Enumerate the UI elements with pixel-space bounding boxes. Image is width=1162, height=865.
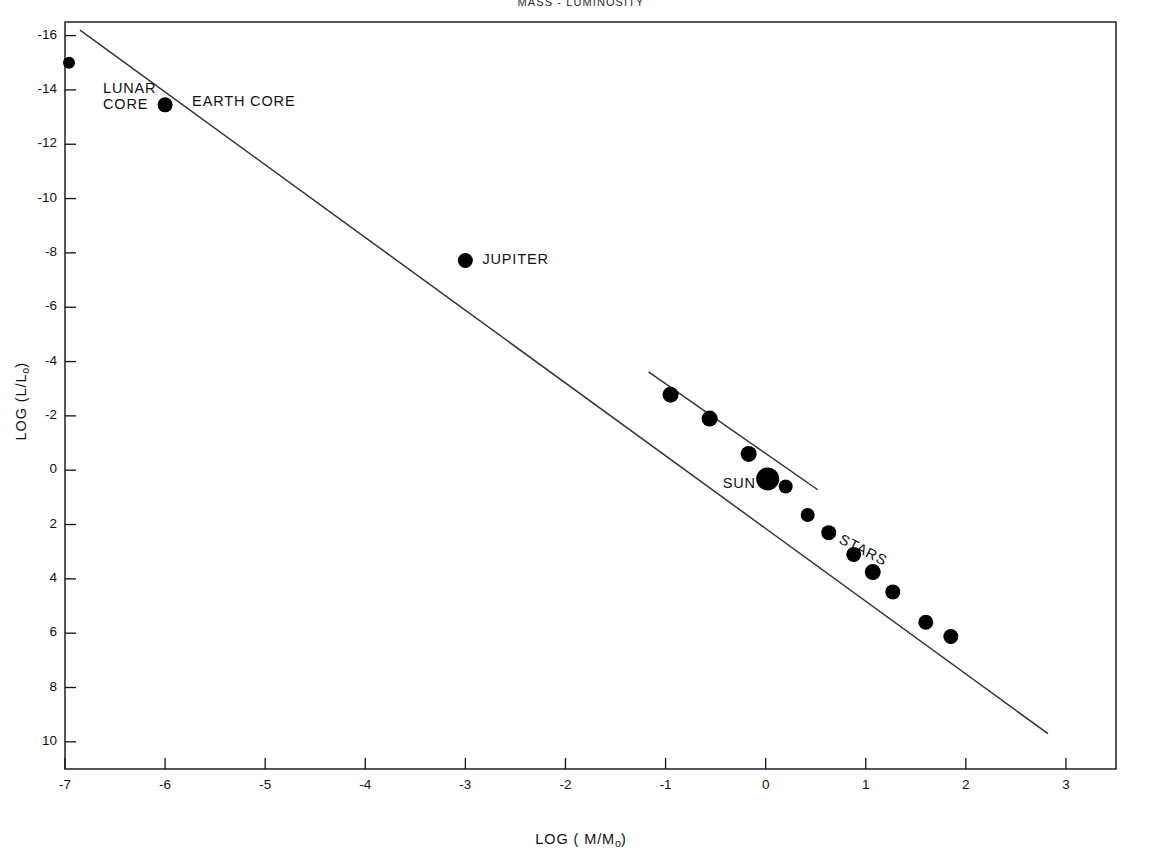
x-axis-title-text: LOG ( M/M xyxy=(535,831,615,847)
y-tick-label: -12 xyxy=(11,135,57,150)
y-tick-label: 4 xyxy=(11,570,57,585)
x-tick-label: -6 xyxy=(145,777,185,792)
x-axis-title: LOG ( M/Mo) xyxy=(0,831,1162,849)
y-axis-title: LOG (L/Lo) xyxy=(13,301,31,501)
earth-core-label-line1: EARTH CORE xyxy=(192,93,295,109)
data-point-star-10 xyxy=(918,615,933,630)
lunar-core-label-line2: CORE xyxy=(103,96,156,112)
x-tick-label: -4 xyxy=(345,777,385,792)
sun-label-line1: SUN xyxy=(723,475,756,491)
x-tick-label: -3 xyxy=(445,777,485,792)
x-tick-label: -2 xyxy=(545,777,585,792)
lunar-core-label: LUNARCORE xyxy=(103,80,156,112)
data-point-star-3 xyxy=(741,446,757,462)
data-point-star-6 xyxy=(821,525,836,540)
jupiter-label-line1: JUPITER xyxy=(482,251,548,267)
y-tick-label: -8 xyxy=(11,244,57,259)
data-point-lunar-core xyxy=(63,57,75,69)
mass-luminosity-figure: MASS - LUMINOSITY -7-6-5-4-3-2-10123 -16… xyxy=(0,0,1162,865)
x-tick-label: -5 xyxy=(245,777,285,792)
x-axis-title-tail: ) xyxy=(621,831,627,847)
x-tick-label: 2 xyxy=(946,777,986,792)
y-axis-title-subscript: o xyxy=(19,368,31,374)
y-axis-title-tail: ) xyxy=(13,362,29,368)
x-tick-label: 3 xyxy=(1046,777,1086,792)
data-point-star-5 xyxy=(801,508,815,522)
y-tick-label: -16 xyxy=(11,27,57,42)
y-tick-label: -10 xyxy=(11,190,57,205)
y-tick-label: -14 xyxy=(11,81,57,96)
data-point-jupiter xyxy=(458,253,473,268)
data-point-star-2 xyxy=(702,411,718,427)
x-tick-label: 0 xyxy=(746,777,786,792)
y-axis-title-text: LOG (L/L xyxy=(13,374,29,441)
plot-canvas xyxy=(0,0,1162,865)
data-point-star-1 xyxy=(663,387,679,403)
lunar-core-label-line1: LUNAR xyxy=(103,80,156,96)
x-tick-label: 1 xyxy=(846,777,886,792)
data-points xyxy=(63,57,958,644)
data-point-star-11 xyxy=(943,629,958,644)
x-tick-label: -7 xyxy=(45,777,85,792)
x-tick-label: -1 xyxy=(646,777,686,792)
y-tick-label: 2 xyxy=(11,516,57,531)
jupiter-label: JUPITER xyxy=(482,251,548,267)
earth-core-label: EARTH CORE xyxy=(192,93,295,109)
sun-label: SUN xyxy=(723,475,756,491)
data-point-star-9 xyxy=(885,584,900,599)
trend-lines xyxy=(80,30,1048,734)
main-trend xyxy=(80,30,1048,734)
y-tick-label: 8 xyxy=(11,679,57,694)
y-tick-label: 6 xyxy=(11,624,57,639)
data-point-star-4 xyxy=(779,479,793,493)
data-point-earth-core xyxy=(158,97,173,112)
y-tick-label: 10 xyxy=(11,733,57,748)
data-point-sun xyxy=(756,467,779,490)
